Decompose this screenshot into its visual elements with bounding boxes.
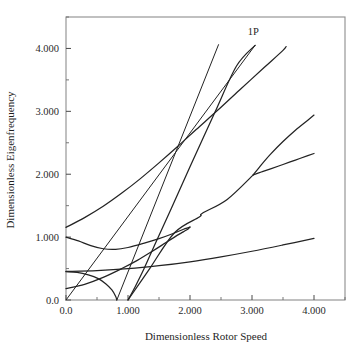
campbell-diagram-figure: 0.01.0002.0003.0004.0000.01.0002.0003.00… [0,0,362,348]
x-tick-label: 1.000 [116,305,140,316]
curve-lowest-forward-mode [66,238,314,271]
curve-fourth-mode-veer-upper [253,115,314,175]
x-axis-title: Dimensionless Rotor Speed [145,330,268,342]
y-tick-label: 0.0 [46,295,59,306]
curve-third-mode-upper-branch [66,47,286,228]
tick-labels: 0.01.0002.0003.0004.0000.01.0002.0003.00… [35,43,325,316]
curve-second-mode-veering-branch [66,227,190,249]
x-tick-label: 0.0 [59,305,72,316]
y-tick-label: 2.000 [35,169,59,180]
y-tick-label: 1.000 [35,232,59,243]
x-tick-label: 2.000 [178,305,202,316]
y-tick-label: 4.000 [35,43,59,54]
x-tick-label: 3.000 [240,305,264,316]
y-tick-label: 3.000 [35,106,59,117]
curve-backward-mode-branch-low [66,272,117,300]
x-tick-label: 4.000 [302,305,326,316]
annotation-1p: 1P [248,26,259,37]
chart-annotations: 1P [248,26,259,37]
plot-frame [66,17,345,300]
y-axis-title: Dimensionless Eigenfrequency [4,91,16,229]
data-curves [66,45,314,300]
chart-canvas: 0.01.0002.0003.0004.0000.01.0002.0003.00… [0,0,362,348]
curve-fourth-mode-incoming [128,175,253,300]
curve-1P excitation line [66,45,255,300]
axis-ticks [66,17,345,300]
curve-straight-line-upper [117,45,219,300]
